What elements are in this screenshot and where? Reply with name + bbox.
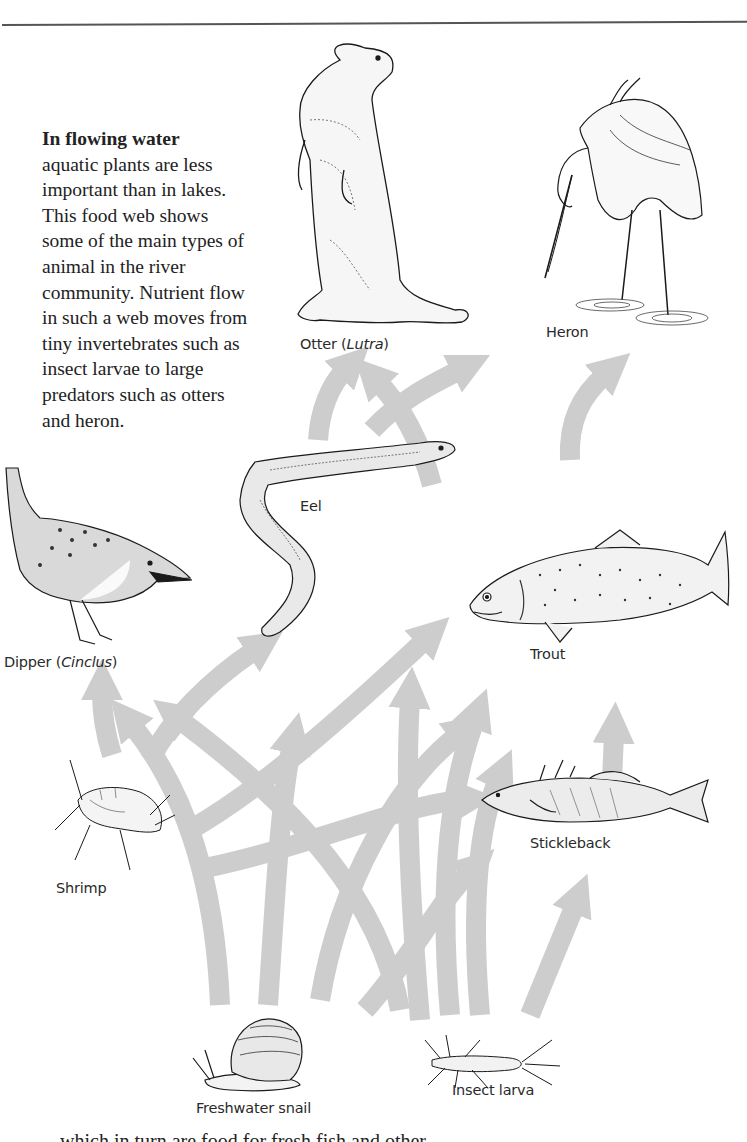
- arrow-eel-to-otter: [318, 370, 345, 440]
- label-heron: Heron: [546, 324, 589, 340]
- arrow-trout-to-heron: [570, 375, 605, 460]
- label-trout: Trout: [530, 646, 565, 662]
- arrow-larva-to-stickleback: [530, 905, 575, 1015]
- label-insect-larva: Insect larva: [452, 1082, 534, 1098]
- clipped-body-text: which in turn are food for fresh fish an…: [60, 1126, 440, 1142]
- dipper-common-name: Dipper (: [4, 654, 61, 670]
- label-shrimp: Shrimp: [56, 880, 107, 896]
- arrow-larva-to-trout-b: [408, 700, 420, 1020]
- dipper-genus: Cinclus: [61, 654, 112, 670]
- otter-common-name: Otter (: [300, 336, 347, 352]
- label-freshwater-snail: Freshwater snail: [196, 1100, 311, 1116]
- label-otter: Otter (Lutra): [300, 336, 389, 352]
- insect-larva-illustration: [425, 1035, 560, 1088]
- food-web-diagram: [0, 0, 747, 1142]
- dipper-paren: ): [112, 654, 117, 670]
- freshwater-snail-illustration: [193, 1019, 302, 1091]
- label-stickleback: Stickleback: [530, 835, 611, 851]
- arrow-larva-to-trout-e: [476, 780, 498, 1015]
- trout-illustration: [470, 530, 729, 642]
- label-eel: Eel: [300, 498, 322, 514]
- otter-paren: ): [383, 336, 388, 352]
- otter-illustration: [298, 44, 468, 323]
- label-dipper: Dipper (Cinclus): [4, 654, 117, 670]
- stickleback-illustration: [482, 760, 708, 822]
- dipper-illustration: [6, 468, 192, 644]
- arrow-shrimp-to-dipper: [102, 692, 112, 755]
- heron-illustration: [545, 78, 708, 325]
- otter-genus: Lutra: [347, 336, 384, 352]
